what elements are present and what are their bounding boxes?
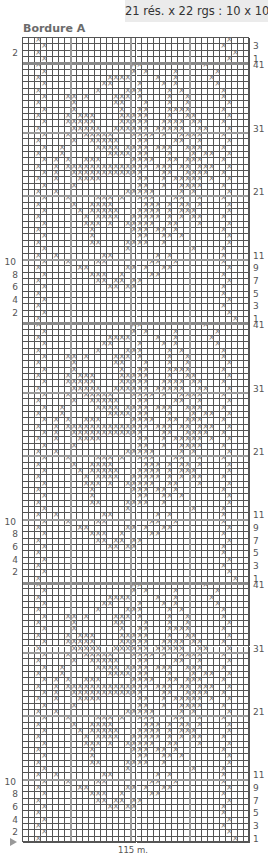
row-separator bbox=[23, 392, 248, 394]
row-number-label: 9 bbox=[253, 524, 259, 533]
row-number-label: 31 bbox=[253, 645, 264, 654]
row-number-label: 21 bbox=[253, 188, 264, 197]
row-number-label: 8 bbox=[4, 530, 18, 539]
row-number-label: 3 bbox=[253, 302, 259, 311]
row-number-label: 2 bbox=[4, 828, 18, 837]
row-number-label: 3 bbox=[253, 822, 259, 831]
row-number-label: 10 bbox=[2, 258, 16, 267]
row-number-label: 3 bbox=[253, 562, 259, 571]
row-number-label: 11 bbox=[253, 511, 264, 520]
row-number-label: 2 bbox=[4, 309, 18, 318]
knitting-chart-grid bbox=[22, 37, 249, 842]
row-number-label: 31 bbox=[253, 385, 264, 394]
column-separator bbox=[130, 38, 132, 841]
row-number-label: 41 bbox=[253, 321, 264, 330]
row-number-label: 7 bbox=[253, 797, 259, 806]
row-number-label: 5 bbox=[253, 290, 259, 299]
row-number-label: 5 bbox=[253, 809, 259, 818]
row-separator bbox=[23, 652, 248, 654]
row-separator bbox=[23, 322, 248, 325]
row-separator bbox=[23, 132, 248, 134]
row-number-label: 4 bbox=[4, 296, 18, 305]
row-number-label: 21 bbox=[253, 448, 264, 457]
row-separator bbox=[23, 519, 248, 521]
row-separator bbox=[23, 259, 248, 261]
row-number-label: 7 bbox=[253, 537, 259, 546]
row-number-label: 41 bbox=[253, 581, 264, 590]
row-number-label: 8 bbox=[4, 271, 18, 280]
row-number-label: 2 bbox=[4, 49, 18, 58]
row-number-label: 41 bbox=[253, 61, 264, 70]
row-number-label: 10 bbox=[2, 778, 16, 787]
row-separator bbox=[23, 582, 248, 585]
row-number-label: 5 bbox=[253, 549, 259, 558]
empty-cell bbox=[244, 837, 250, 843]
stitch-count-label: 115 m. bbox=[118, 845, 148, 854]
column-separator bbox=[189, 38, 191, 841]
row-number-label: 9 bbox=[253, 264, 259, 273]
row-separator bbox=[23, 779, 248, 781]
row-separator bbox=[23, 195, 248, 197]
row-number-label: 7 bbox=[253, 277, 259, 286]
row-number-label: 21 bbox=[253, 708, 264, 717]
row-number-label: 6 bbox=[4, 803, 18, 812]
row-number-label: 1 bbox=[253, 835, 259, 844]
chart-title: Bordure A bbox=[23, 22, 85, 35]
row-number-label: 10 bbox=[2, 518, 16, 527]
row-separator bbox=[23, 62, 248, 65]
row-number-label: 9 bbox=[253, 784, 259, 793]
gauge-info: 21 rés. x 22 rgs : 10 x 10 cm bbox=[125, 0, 268, 22]
row-number-label: 11 bbox=[253, 771, 264, 780]
row-separator bbox=[23, 455, 248, 457]
row-separator bbox=[23, 715, 248, 717]
row-number-label: 8 bbox=[4, 790, 18, 799]
row-number-label: 2 bbox=[4, 568, 18, 577]
row-number-label: 31 bbox=[253, 125, 264, 134]
start-arrow-icon bbox=[10, 838, 17, 846]
row-number-label: 3 bbox=[253, 42, 259, 51]
row-number-label: 4 bbox=[4, 816, 18, 825]
row-number-label: 6 bbox=[4, 283, 18, 292]
row-number-label: 4 bbox=[4, 556, 18, 565]
column-separator bbox=[70, 38, 72, 841]
row-number-label: 6 bbox=[4, 543, 18, 552]
row-number-label: 11 bbox=[253, 252, 264, 261]
